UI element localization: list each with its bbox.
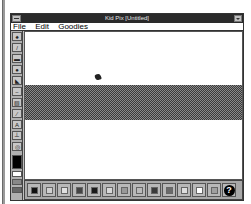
hand-cursor-icon	[94, 73, 102, 81]
option-swatch[interactable]	[177, 183, 191, 197]
color-option-white[interactable]	[12, 171, 22, 177]
undo-guy-icon[interactable]: ◎	[12, 142, 22, 151]
menu-file[interactable]: File	[11, 23, 28, 31]
drawing-canvas[interactable]	[24, 31, 243, 180]
color-option-gray[interactable]	[12, 179, 22, 185]
help-button[interactable]: ?	[222, 183, 236, 197]
option-swatch[interactable]	[87, 183, 101, 197]
menu-edit[interactable]: Edit	[33, 23, 51, 31]
help-icon: ?	[224, 185, 235, 196]
stamp-icon[interactable]: ┴	[12, 131, 22, 140]
eraser-icon[interactable]: ▧	[12, 98, 22, 107]
option-swatch[interactable]	[132, 183, 146, 197]
option-swatch[interactable]	[162, 183, 176, 197]
moving-van-icon[interactable]: ∕	[12, 109, 22, 118]
rectangle-icon[interactable]: ▬	[12, 54, 22, 63]
current-color-indicator[interactable]	[12, 155, 22, 169]
text-icon[interactable]: A	[12, 120, 22, 129]
pencil-icon[interactable]: /	[12, 43, 22, 52]
option-swatch[interactable]	[117, 183, 131, 197]
oval-icon[interactable]: ●	[12, 65, 22, 74]
maximize-icon[interactable]	[234, 15, 242, 22]
option-swatch[interactable]	[57, 183, 71, 197]
option-swatch[interactable]	[42, 183, 56, 197]
option-palette: ?	[24, 180, 243, 200]
tool-palette: ♠ / ▬ ● ◣ − ▧ ∕ A ┴ ◎	[11, 31, 23, 200]
drawn-pattern-band	[25, 85, 242, 120]
line-icon[interactable]: −	[12, 87, 22, 96]
option-swatch[interactable]	[192, 183, 206, 197]
option-swatch[interactable]	[147, 183, 161, 197]
menu-bar: File Edit Goodies	[11, 23, 243, 31]
option-swatch[interactable]	[207, 183, 221, 197]
color-option-dark[interactable]	[12, 187, 22, 193]
kid-pix-window: Kid Pix [Untitled] File Edit Goodies ♠ /…	[10, 13, 244, 201]
paint-bucket-icon[interactable]: ◣	[12, 76, 22, 85]
wacky-brush-icon[interactable]: ♠	[12, 32, 22, 41]
option-swatch[interactable]	[72, 183, 86, 197]
option-swatch[interactable]	[102, 183, 116, 197]
menu-goodies[interactable]: Goodies	[56, 23, 90, 31]
background-window-edge	[2, 0, 5, 204]
option-swatch[interactable]	[27, 183, 41, 197]
